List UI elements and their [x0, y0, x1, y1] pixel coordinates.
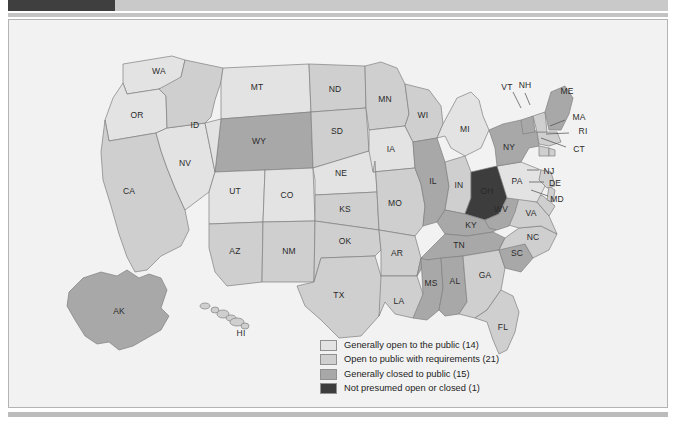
state-label-nv: NV — [179, 158, 191, 168]
state-label-wi: WI — [418, 110, 429, 120]
header-dark-block — [8, 0, 115, 11]
legend-swatch-not-presumed — [320, 383, 337, 394]
state-label-de: DE — [549, 178, 561, 188]
state-label-ms: MS — [424, 278, 437, 288]
state-label-va: VA — [525, 208, 536, 218]
state-nh[interactable] — [533, 112, 547, 132]
state-label-ok: OK — [339, 236, 352, 246]
state-label-sd: SD — [331, 126, 343, 136]
state-label-in: IN — [455, 180, 464, 190]
state-label-nm: NM — [282, 246, 296, 256]
header-divider-rule — [8, 13, 668, 17]
legend-label-closed: Generally closed to public (15) — [344, 369, 470, 380]
state-label-ks: KS — [339, 204, 351, 214]
legend-item: Generally open to the public (14) — [320, 338, 570, 352]
state-ct[interactable] — [539, 146, 549, 156]
state-label-ga: GA — [479, 270, 492, 280]
state-label-wy: WY — [252, 136, 266, 146]
screenshot-root: WAORCANVIDMTWYUTCOAZNMNDSDNEKSOKTXMNIAMO… — [0, 0, 676, 427]
state-label-il: IL — [429, 176, 437, 186]
state-label-fl: FL — [498, 322, 508, 332]
state-label-ny: NY — [503, 142, 515, 152]
state-label-ky: KY — [465, 220, 477, 230]
state-label-ia: IA — [387, 144, 396, 154]
state-label-ct: CT — [573, 144, 585, 154]
state-label-mt: MT — [251, 82, 264, 92]
map-legend: Generally open to the public (14) Open t… — [320, 338, 570, 396]
state-label-oh: OH — [480, 186, 493, 196]
state-label-mi: MI — [460, 124, 470, 134]
state-hi-island-0[interactable] — [200, 303, 210, 309]
state-vt[interactable] — [521, 116, 535, 134]
state-label-mo: MO — [388, 198, 402, 208]
state-label-la: LA — [394, 296, 405, 306]
state-label-co: CO — [280, 190, 293, 200]
legend-label-not-presumed: Not presumed open or closed (1) — [344, 383, 480, 394]
state-label-pa: PA — [511, 176, 522, 186]
state-label-sc: SC — [511, 248, 523, 258]
legend-item: Not presumed open or closed (1) — [320, 382, 570, 396]
state-label-ne: NE — [335, 168, 347, 178]
state-label-wv: WV — [494, 204, 508, 214]
state-label-vt: VT — [501, 82, 512, 92]
state-label-tx: TX — [333, 290, 344, 300]
state-label-id: ID — [191, 120, 200, 130]
state-label-nc: NC — [527, 232, 540, 242]
legend-swatch-requirements — [320, 354, 337, 365]
state-label-nj: NJ — [544, 166, 555, 176]
state-label-mn: MN — [378, 94, 392, 104]
state-label-ut: UT — [229, 186, 241, 196]
state-label-ma: MA — [572, 112, 585, 122]
state-label-me: ME — [560, 86, 573, 96]
state-label-az: AZ — [229, 246, 240, 256]
state-label-md: MD — [550, 194, 564, 204]
state-label-al: AL — [450, 276, 461, 286]
state-label-nh: NH — [519, 80, 532, 90]
state-label-ca: CA — [123, 186, 135, 196]
state-label-tn: TN — [453, 240, 465, 250]
header-gray-bar — [115, 0, 668, 11]
legend-label-requirements: Open to public with requirements (21) — [344, 354, 499, 365]
state-label-wa: WA — [152, 66, 166, 76]
state-ri[interactable] — [549, 148, 555, 156]
state-label-ak: AK — [113, 306, 125, 316]
state-mt[interactable] — [221, 64, 311, 119]
state-label-nd: ND — [329, 84, 342, 94]
legend-label-open: Generally open to the public (14) — [344, 340, 479, 351]
legend-item: Generally closed to public (15) — [320, 367, 570, 381]
state-label-hi: HI — [237, 328, 246, 338]
legend-swatch-open — [320, 340, 337, 351]
state-label-or: OR — [130, 110, 143, 120]
state-label-ar: AR — [391, 248, 403, 258]
footer-divider-rule — [8, 412, 668, 417]
state-label-ri: RI — [579, 126, 588, 136]
legend-item: Open to public with requirements (21) — [320, 353, 570, 367]
legend-swatch-closed — [320, 369, 337, 380]
